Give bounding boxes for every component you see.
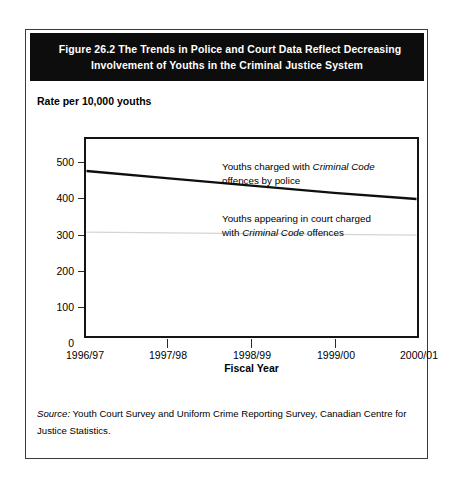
x-axis-title: Fiscal Year	[84, 362, 419, 374]
police-series-annotation: Youths charged with Criminal Code offenc…	[222, 160, 375, 188]
court-series-annotation: Youths appearing in court charged with C…	[222, 212, 371, 240]
figure-card: Figure 26.2 The Trends in Police and Cou…	[25, 29, 428, 459]
source-text: Youth Court Survey and Uniform Crime Rep…	[37, 408, 406, 436]
plot-area: 500 400 300 200 100 0 1996/97 1997/98 19…	[26, 30, 429, 460]
police-annotation-text-a: Youths charged with	[222, 161, 313, 172]
court-annotation-italic: Criminal Code	[242, 227, 304, 238]
court-annotation-text-b: with	[222, 227, 242, 238]
police-annotation-text-b: offences by police	[222, 174, 375, 188]
source-label: Source:	[37, 408, 70, 419]
court-annotation-text-a: Youths appearing in court charged	[222, 212, 371, 226]
police-annotation-italic: Criminal Code	[313, 161, 375, 172]
court-annotation-text-c: offences	[304, 227, 344, 238]
source-note: Source: Youth Court Survey and Uniform C…	[37, 405, 417, 439]
series-layer	[26, 30, 429, 460]
